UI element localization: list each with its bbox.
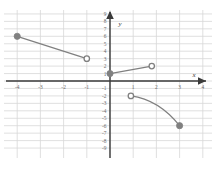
closed-point-3-neg6 (177, 123, 183, 129)
y-tick-label: 1 (104, 71, 107, 77)
x-tick-label: -3 (38, 84, 43, 90)
open-point-1p8-2 (149, 63, 154, 68)
closed-point-neg4-6 (14, 33, 20, 39)
y-tick-label: 8 (104, 18, 107, 24)
open-point-0p9-neg2 (128, 93, 133, 98)
y-tick-label: -5 (102, 115, 107, 121)
y-tick-label: -8 (102, 138, 107, 144)
coordinate-graph-figure: -4-3-2-11234 987654321-1-2-3-4-5-6-7-8-9… (0, 0, 217, 170)
y-tick-label: -2 (102, 93, 107, 99)
y-tick-label: 2 (104, 63, 107, 69)
x-tick-label: 3 (178, 84, 181, 90)
y-tick-label: 9 (104, 11, 107, 17)
y-tick-label: 3 (104, 56, 107, 62)
graph-canvas: -4-3-2-11234 987654321-1-2-3-4-5-6-7-8-9… (0, 0, 217, 170)
y-tick-label: 7 (104, 26, 107, 32)
x-tick-label: 2 (155, 84, 158, 90)
open-point-neg1-3 (84, 56, 89, 61)
x-tick-label: -4 (15, 84, 20, 90)
y-tick-label: 5 (104, 41, 107, 47)
y-tick-label: 6 (104, 33, 107, 39)
x-tick-label: -1 (85, 84, 90, 90)
y-tick-label: -1 (102, 85, 107, 91)
x-tick-label: 1 (132, 84, 135, 90)
x-tick-label: -2 (61, 84, 66, 90)
figure-background (0, 0, 217, 170)
y-tick-label: -6 (102, 123, 107, 129)
x-tick-label: 4 (201, 84, 204, 90)
closed-point-0-1 (107, 70, 113, 76)
y-tick-label: 4 (104, 48, 107, 54)
y-tick-label: -4 (102, 108, 107, 114)
y-tick-label: -3 (102, 100, 107, 106)
y-tick-label: -9 (102, 145, 107, 151)
y-tick-label: -7 (102, 130, 107, 136)
